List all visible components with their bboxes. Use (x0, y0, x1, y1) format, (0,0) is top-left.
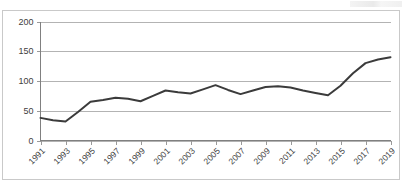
x-axis-label-2003: 2003 (176, 146, 197, 167)
x-axis-label-2017: 2017 (351, 146, 372, 167)
x-axis-labels-group: 1991199319951997199920012003200520072009… (26, 146, 397, 167)
y-axis-label-0: 0 (28, 136, 33, 146)
gridlines-group (41, 23, 391, 142)
x-axis-label-2001: 2001 (151, 146, 172, 167)
x-axis-label-1995: 1995 (76, 146, 97, 167)
x-axis-label-2009: 2009 (251, 146, 272, 167)
chart-plot-svg: 050100150200 199119931995199719992001200… (0, 0, 406, 184)
y-tick-marks-group (37, 23, 41, 142)
y-axis-label-50: 50 (23, 106, 33, 116)
x-axis-label-2005: 2005 (201, 146, 222, 167)
x-axis-label-1993: 1993 (51, 146, 72, 167)
x-axis-label-2013: 2013 (301, 146, 322, 167)
x-axis-label-1991: 1991 (26, 146, 47, 167)
x-axis-label-2019: 2019 (376, 146, 397, 167)
x-axis-label-2015: 2015 (326, 146, 347, 167)
x-axis-label-2007: 2007 (226, 146, 247, 167)
y-axis-label-150: 150 (18, 46, 33, 56)
x-axis-label-1999: 1999 (126, 146, 147, 167)
y-axis-label-100: 100 (18, 76, 33, 86)
line-chart-figure: 050100150200 199119931995199719992001200… (0, 0, 406, 184)
y-axis-labels-group: 050100150200 (18, 17, 33, 146)
x-axis-label-2011: 2011 (277, 146, 297, 166)
x-axis-label-1997: 1997 (101, 146, 122, 167)
y-axis-label-200: 200 (18, 17, 33, 27)
